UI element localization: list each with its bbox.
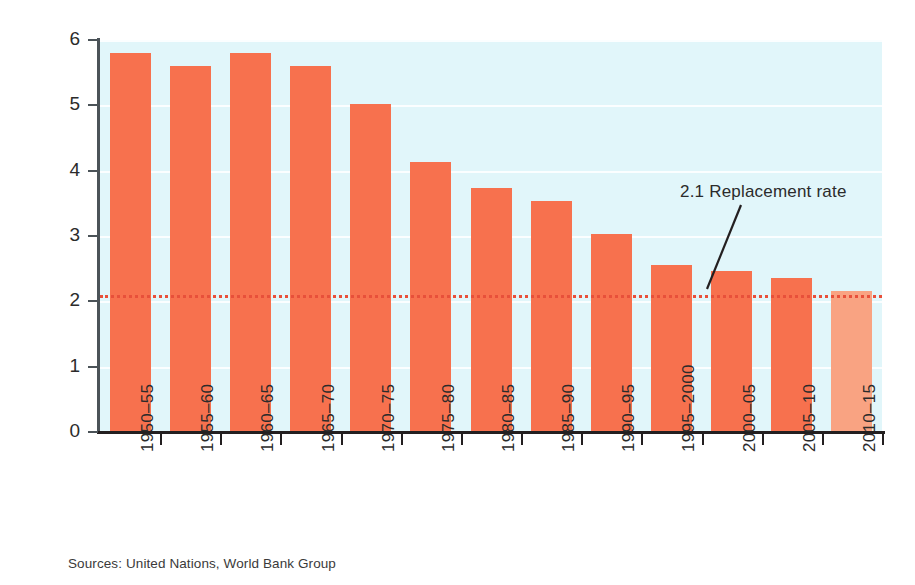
- y-axis-tick: [88, 431, 98, 433]
- x-axis-tick-label: 1970–75: [379, 384, 399, 452]
- y-axis-tick-label-text: 4: [52, 160, 80, 179]
- y-axis-tick-label-text: 0: [52, 421, 80, 440]
- x-axis-tick-label: 2000–05: [740, 384, 760, 452]
- x-axis-tick: [702, 434, 704, 445]
- x-axis-tick-label: 1960–65: [258, 384, 278, 452]
- x-axis-tick: [641, 434, 643, 445]
- bar: [170, 66, 211, 432]
- y-axis-tick: [88, 366, 98, 368]
- y-axis-tick: [88, 39, 98, 41]
- bar: [290, 66, 331, 432]
- y-axis-tick-label-text: 1: [52, 356, 80, 375]
- y-axis-tick-label: 6: [50, 29, 80, 49]
- x-axis-tick-label: 2010–15: [860, 384, 880, 452]
- x-axis-tick: [160, 434, 162, 445]
- x-axis-tick: [220, 434, 222, 445]
- x-axis-tick: [822, 434, 824, 445]
- gridline: [100, 171, 882, 173]
- replacement-rate-line: [100, 295, 882, 298]
- x-axis-tick: [341, 434, 343, 445]
- bar: [110, 53, 151, 432]
- y-axis-tick-label-text: 2: [52, 290, 80, 309]
- x-axis-tick-label: 1975–80: [439, 384, 459, 452]
- replacement-rate-annotation: 2.1 Replacement rate: [680, 182, 847, 202]
- y-axis-tick: [88, 300, 98, 302]
- gridline: [100, 105, 882, 107]
- x-axis-tick: [280, 434, 282, 445]
- y-axis-tick: [88, 104, 98, 106]
- gridline: [100, 40, 882, 42]
- bar: [230, 53, 271, 432]
- y-axis-tick: [88, 235, 98, 237]
- y-axis-tick-label: 1: [50, 356, 80, 376]
- x-axis-tick-label: 1965–70: [319, 384, 339, 452]
- sources-note: Sources: United Nations, World Bank Grou…: [68, 556, 336, 571]
- y-axis-tick-label-text: 6: [52, 29, 80, 48]
- x-axis-tick-label: 1985–90: [559, 384, 579, 452]
- x-axis-tick-label: 1995–2000: [679, 364, 699, 452]
- x-axis-tick: [461, 434, 463, 445]
- x-axis-tick-label: 1990–95: [619, 384, 639, 452]
- plot-area: [100, 40, 882, 432]
- y-axis-tick: [88, 170, 98, 172]
- x-axis-tick: [762, 434, 764, 445]
- y-axis-tick-label-text: 3: [52, 225, 80, 244]
- x-axis-tick: [882, 434, 884, 445]
- x-axis-tick-label: 2005–10: [800, 384, 820, 452]
- fertility-rate-chart-figure: Fertility rate 65432101950–551955–601960…: [0, 0, 915, 585]
- y-axis-tick-label: 0: [50, 421, 80, 441]
- x-axis-tick: [401, 434, 403, 445]
- y-axis-tick-label: 4: [50, 160, 80, 180]
- y-axis-tick-label: 2: [50, 290, 80, 310]
- y-axis-tick-label-text: 5: [52, 94, 80, 113]
- x-axis-tick-label: 1980–85: [499, 384, 519, 452]
- y-axis-tick-label: 5: [50, 94, 80, 114]
- y-axis-tick-label: 3: [50, 225, 80, 245]
- x-axis-tick: [581, 434, 583, 445]
- x-axis-tick-label: 1955–60: [198, 384, 218, 452]
- x-axis-tick: [521, 434, 523, 445]
- x-axis-tick-label: 1950–55: [138, 384, 158, 452]
